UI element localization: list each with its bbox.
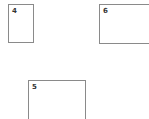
box-5[interactable]: 5 — [28, 80, 86, 119]
box-label: 6 — [103, 7, 108, 15]
box-6[interactable]: 6 — [99, 4, 149, 44]
box-4[interactable]: 4 — [8, 4, 34, 43]
box-label: 4 — [12, 7, 17, 15]
box-label: 5 — [32, 83, 37, 91]
